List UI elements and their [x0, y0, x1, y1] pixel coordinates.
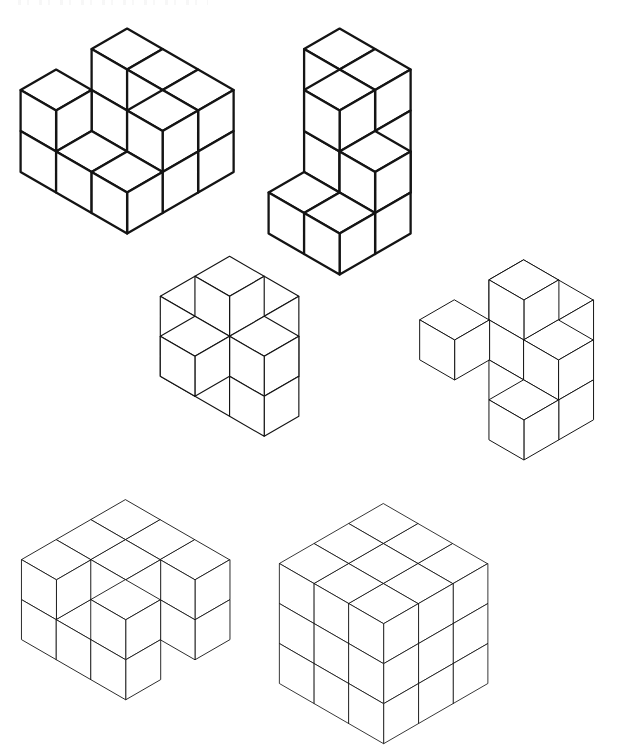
scan-artifact	[18, 0, 208, 5]
figure-middle-left	[156, 252, 303, 441]
figure-top-right	[262, 22, 417, 281]
figure-top-left	[14, 22, 240, 240]
figure-bottom-right	[276, 500, 491, 747]
figure-top-left-canvas	[14, 22, 240, 240]
figure-top-right-canvas	[262, 22, 417, 281]
figure-middle-left-canvas	[156, 252, 303, 441]
figure-middle-right-canvas	[416, 256, 597, 464]
figure-bottom-left-canvas	[18, 496, 233, 704]
figure-middle-right	[416, 256, 597, 464]
figure-bottom-left	[18, 496, 233, 704]
figure-bottom-right-canvas	[276, 500, 491, 747]
